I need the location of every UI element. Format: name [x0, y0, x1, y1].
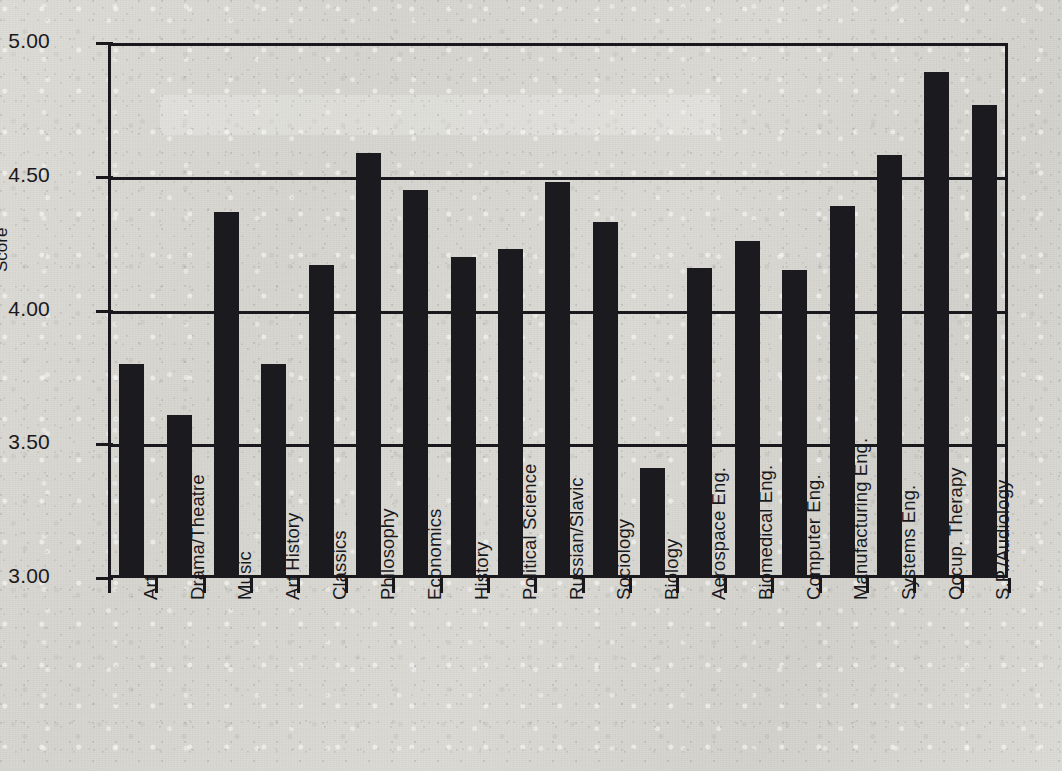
x-axis-labels: ArtDrama/TheatreMusicArt HistoryClassics… — [0, 0, 1062, 771]
bar — [545, 182, 570, 578]
bar — [640, 468, 665, 578]
bar — [356, 153, 381, 578]
bar — [214, 212, 239, 578]
bar — [261, 364, 286, 578]
bar — [924, 72, 949, 578]
bar — [735, 241, 760, 578]
bar — [593, 222, 618, 578]
bar — [687, 268, 712, 578]
bar — [403, 190, 428, 578]
bar — [830, 206, 855, 578]
bar — [119, 364, 144, 578]
bar — [167, 415, 192, 578]
bar — [309, 265, 334, 578]
bar — [877, 155, 902, 578]
bar — [451, 257, 476, 578]
chart-page: Score 5.004.504.003.503.00 ArtDrama/Thea… — [0, 0, 1062, 771]
x-tick-label: Art — [140, 576, 162, 600]
bar — [782, 270, 807, 578]
bar — [972, 105, 997, 578]
bar — [498, 249, 523, 578]
